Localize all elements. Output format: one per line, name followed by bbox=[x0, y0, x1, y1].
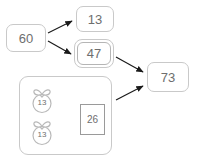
node-source-60[interactable]: 60 bbox=[6, 24, 46, 52]
node-part-47[interactable]: 47 bbox=[74, 39, 114, 68]
edge-60-to-13 bbox=[48, 21, 72, 33]
node-sum-26[interactable]: 26 bbox=[80, 104, 105, 135]
node-sum-26-label: 26 bbox=[87, 114, 98, 125]
node-total-73[interactable]: 73 bbox=[147, 62, 189, 92]
bag-item-2-label: 13 bbox=[27, 117, 57, 147]
edge-60-to-47 bbox=[48, 41, 71, 54]
node-part-13-label: 13 bbox=[88, 12, 102, 27]
node-source-60-label: 60 bbox=[19, 31, 33, 46]
bag-item-2[interactable]: 13 bbox=[27, 117, 57, 147]
node-part-47-inner: 47 bbox=[77, 42, 111, 65]
node-total-73-label: 73 bbox=[161, 70, 175, 85]
node-part-13[interactable]: 13 bbox=[76, 6, 114, 32]
edge-group-to-73 bbox=[116, 86, 143, 100]
bag-item-1[interactable]: 13 bbox=[27, 85, 57, 115]
edge-47-to-73 bbox=[116, 57, 143, 72]
node-part-47-label: 47 bbox=[87, 46, 101, 61]
diagram-canvas: 60 13 47 73 13 13 26 bbox=[0, 0, 197, 161]
bag-item-1-label: 13 bbox=[27, 85, 57, 115]
